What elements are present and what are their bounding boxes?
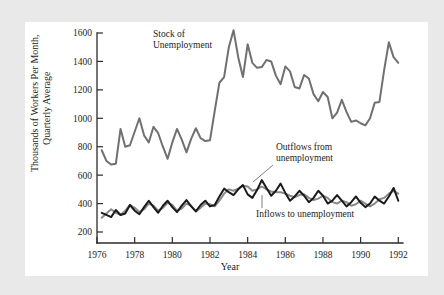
stock-annotation-line1: Stock of — [153, 29, 186, 39]
stock-annotation-line2: Unemployment — [153, 40, 212, 50]
outflows-annotation-line2: unemployment — [276, 153, 333, 163]
unemployment-chart: 2004006008001000120014001600 19761978198… — [25, 22, 428, 276]
y-axis-title-line2: Quarterly Average — [41, 71, 52, 145]
x-tick-label: 1980 — [163, 250, 182, 260]
y-tick-group: 2004006008001000120014001600 — [73, 28, 103, 237]
x-tick-group: 197619781980198219841986198819901992 — [88, 237, 409, 260]
outflows-annotation-line1: Outflows from — [276, 142, 333, 152]
x-tick-label: 1990 — [351, 250, 370, 260]
x-axis-title: Year — [221, 261, 240, 272]
figure-card: 2004006008001000120014001600 19761978198… — [25, 22, 428, 276]
y-axis-title-line1: Thousands of Workers Per Month, — [29, 34, 40, 172]
y-tick-label: 1200 — [73, 85, 92, 95]
y-tick-label: 200 — [78, 227, 93, 237]
x-tick-label: 1976 — [88, 250, 107, 260]
inflows-annotation-label: Inflows to unemployment — [256, 209, 355, 219]
series-stock-line — [102, 30, 399, 164]
stock-annotation: Stock of Unemployment — [153, 29, 212, 50]
series-group — [102, 30, 399, 218]
x-tick-label: 1986 — [276, 250, 295, 260]
outflows-annotation: Outflows from unemployment — [253, 142, 333, 182]
plot-frame — [97, 33, 403, 243]
outflows-leader-line — [253, 165, 273, 182]
x-tick-label: 1988 — [313, 250, 332, 260]
y-tick-label: 400 — [78, 199, 93, 209]
y-tick-label: 1400 — [73, 57, 92, 67]
y-tick-label: 600 — [78, 171, 93, 181]
x-tick-label: 1992 — [389, 250, 408, 260]
y-tick-label: 1000 — [73, 114, 92, 124]
y-tick-label: 800 — [78, 142, 93, 152]
y-axis-title: Thousands of Workers Per Month, Quarterl… — [29, 34, 52, 172]
x-tick-label: 1984 — [238, 250, 257, 260]
x-tick-label: 1982 — [200, 250, 219, 260]
x-tick-label: 1978 — [125, 250, 144, 260]
y-tick-label: 1600 — [73, 28, 92, 38]
